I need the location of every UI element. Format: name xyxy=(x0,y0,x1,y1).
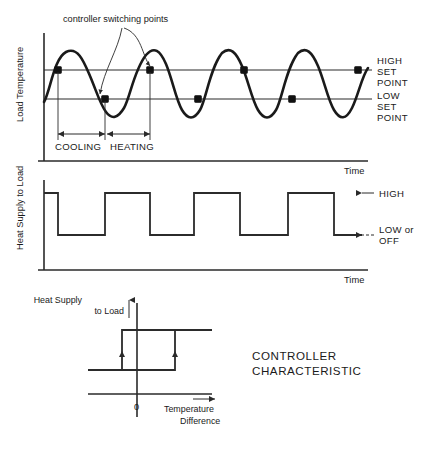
switching-point-marker xyxy=(241,67,248,74)
switching-points-leader-left xyxy=(100,28,122,94)
figure-root: Load Temperature Time controller switchi… xyxy=(0,0,429,465)
hysteresis-arrow-up-left xyxy=(119,351,125,357)
heating-label: HEATING xyxy=(110,141,154,152)
switching-points-leader-right xyxy=(124,28,150,66)
cooling-label: COOLING xyxy=(55,141,101,152)
low-or-off-level-line1: LOW or xyxy=(379,224,414,235)
panel1-y-axis-label: Load Temperature xyxy=(15,47,25,122)
on-off-controller-diagram: Load Temperature Time controller switchi… xyxy=(0,0,429,465)
hysteresis-loop-lower xyxy=(122,330,175,370)
hysteresis-loop-upper xyxy=(88,330,212,370)
switching-point-marker xyxy=(355,67,362,74)
hysteresis-direction-markers xyxy=(119,351,178,357)
panel2-y-axis-label: Heat Supply to Load xyxy=(15,166,25,250)
controller-characteristic-title-line2: CHARACTERISTIC xyxy=(252,364,361,377)
panel2-x-axis-label: Time xyxy=(344,275,364,285)
origin-label: 0 xyxy=(134,402,139,412)
low-set-point-line2: SET xyxy=(377,101,397,112)
controller-switching-points-label: controller switching points xyxy=(63,14,169,24)
low-or-off-level-line2: OFF xyxy=(379,235,399,246)
low-set-point-label-group: LOW SET POINT xyxy=(377,90,408,123)
controller-characteristic-title-line1: CONTROLLER xyxy=(252,349,337,362)
panel-heat-supply: Heat Supply to Load Time HIGH LOW or OFF xyxy=(15,166,414,285)
switching-point-marker xyxy=(289,96,296,103)
high-set-point-line2: SET xyxy=(377,66,397,77)
low-set-point-line1: LOW xyxy=(377,90,400,101)
high-set-point-line3: POINT xyxy=(377,77,408,88)
hysteresis-arrow-up-right xyxy=(172,351,178,357)
panel3-y-axis-label-line1: Heat Supply xyxy=(34,295,83,305)
high-level-label: HIGH xyxy=(379,188,404,199)
high-set-point-label-group: HIGH SET POINT xyxy=(377,55,408,88)
load-temperature-waveform xyxy=(44,50,368,117)
panel3-x-axis-label-line2: Difference xyxy=(180,416,220,426)
heat-supply-square-wave xyxy=(44,193,362,235)
panel3-x-axis-label-line1: Temperature xyxy=(164,404,214,414)
high-set-point-line1: HIGH xyxy=(377,55,402,66)
panel-controller-characteristic: Heat Supply to Load 0 Temperature Differ… xyxy=(34,295,362,426)
panel3-y-axis-label-line2: to Load xyxy=(94,306,124,316)
panel-load-temperature: Load Temperature Time controller switchi… xyxy=(15,14,408,176)
low-set-point-line3: POINT xyxy=(377,112,408,123)
panel1-x-axis-label: Time xyxy=(344,166,364,176)
switching-point-marker xyxy=(195,96,202,103)
